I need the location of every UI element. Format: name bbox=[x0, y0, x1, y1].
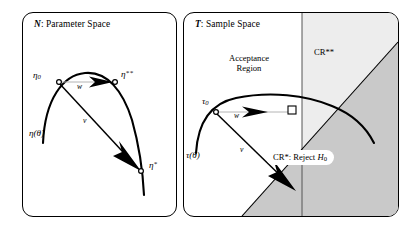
eta-null-label: η0 bbox=[33, 71, 41, 81]
eta-star-point bbox=[139, 169, 144, 174]
v-vector-label-left: v bbox=[83, 117, 86, 125]
cr-single-star-label: CR*: Reject H0 bbox=[266, 150, 334, 165]
acceptance-region-line1: Acceptance bbox=[229, 53, 269, 63]
w-vector-label-right: w bbox=[234, 112, 239, 120]
acceptance-region-line2: Region bbox=[237, 63, 262, 73]
eta-null-point bbox=[57, 80, 62, 85]
panel-sample-space: T: Sample Space Acceptance Region CR** C… bbox=[183, 12, 399, 217]
figure-canvas: N: Parameter Space η0 η** η* η(θ) w v bbox=[0, 0, 419, 228]
acceptance-region-label: Acceptance Region bbox=[211, 53, 287, 73]
eta-star-label: η* bbox=[149, 161, 158, 171]
v-vector-label-right: v bbox=[240, 146, 243, 154]
tau-null-point bbox=[214, 110, 219, 115]
eta-double-star-label: η** bbox=[121, 70, 134, 80]
eta-double-star-point bbox=[113, 80, 118, 85]
square-marker bbox=[288, 106, 296, 114]
tau-theta-curve-label: τ(θ) bbox=[186, 151, 200, 161]
cr-single-star-prefix: CR*: Reject bbox=[273, 152, 317, 162]
panel-right-title: T: Sample Space bbox=[195, 19, 260, 29]
panel-parameter-space: N: Parameter Space η0 η** η* η(θ) w v bbox=[22, 12, 177, 217]
panel-right-title-text: : Sample Space bbox=[201, 19, 260, 29]
eta-theta-curve-label: η(θ) bbox=[29, 129, 44, 139]
panel-left-graphics bbox=[23, 13, 176, 216]
cr-double-star-label: CR** bbox=[314, 47, 334, 57]
cr-single-star-hypothesis-sub: 0 bbox=[324, 155, 327, 162]
panel-right-graphics bbox=[184, 13, 398, 216]
eta-curve bbox=[43, 73, 144, 195]
w-vector-label-left: w bbox=[77, 83, 82, 91]
tau-null-label: τ0 bbox=[202, 97, 209, 107]
